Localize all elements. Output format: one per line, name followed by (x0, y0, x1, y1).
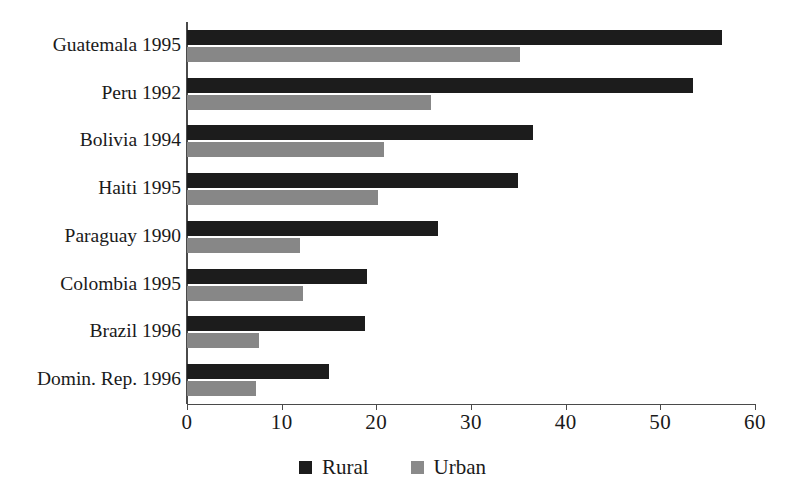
bar-rural (187, 78, 693, 93)
bar-rural (187, 316, 365, 331)
bar-urban (187, 95, 431, 110)
category-label: Paraguay 1990 (65, 226, 181, 246)
category-label: Bolivia 1994 (80, 130, 181, 150)
chart-legend: RuralUrban (0, 455, 785, 480)
x-axis-tick-label: 0 (157, 410, 217, 435)
plot-area (187, 22, 755, 404)
bar-rural (187, 30, 722, 45)
black-square-icon (299, 461, 312, 474)
legend-label: Urban (434, 455, 486, 480)
gray-square-icon (411, 461, 424, 474)
legend-label: Rural (322, 455, 369, 480)
legend-item-urban[interactable]: Urban (411, 455, 486, 480)
bar-urban (187, 47, 520, 62)
category-label: Guatemala 1995 (53, 35, 181, 55)
bar-rural (187, 269, 367, 284)
bar-rural (187, 364, 329, 379)
bar-rural (187, 221, 438, 236)
category-label: Brazil 1996 (89, 321, 181, 341)
bar-urban (187, 238, 300, 253)
x-axis-tick-label: 20 (346, 410, 406, 435)
bar-chart: 0102030405060 Guatemala 1995Peru 1992Bol… (0, 0, 785, 491)
category-label: Peru 1992 (101, 83, 181, 103)
category-label: Colombia 1995 (60, 274, 181, 294)
category-label: Haiti 1995 (98, 178, 181, 198)
x-axis-tick-label: 30 (441, 410, 501, 435)
x-axis-tick-label: 10 (252, 410, 312, 435)
legend-item-rural[interactable]: Rural (299, 455, 369, 480)
bar-urban (187, 142, 384, 157)
bar-urban (187, 286, 303, 301)
bar-urban (187, 381, 256, 396)
x-axis-tick-label: 50 (630, 410, 690, 435)
category-label: Domin. Rep. 1996 (37, 369, 181, 389)
x-axis-tick-label: 40 (536, 410, 596, 435)
bar-rural (187, 125, 533, 140)
bar-rural (187, 173, 518, 188)
x-axis-tick-label: 60 (725, 410, 785, 435)
bar-urban (187, 190, 378, 205)
bar-urban (187, 333, 259, 348)
